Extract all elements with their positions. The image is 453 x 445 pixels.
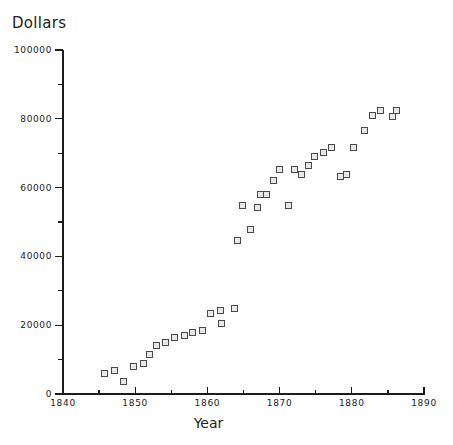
x-tick-label: 1870: [260, 398, 300, 408]
x-tick-label: 1880: [332, 398, 372, 408]
data-point: [254, 204, 261, 211]
data-point: [305, 162, 312, 169]
data-point: [291, 166, 298, 173]
data-point: [153, 342, 160, 349]
data-point: [247, 226, 254, 233]
x-axis-label: Year: [0, 415, 453, 431]
data-point: [320, 149, 327, 156]
data-point: [217, 307, 224, 314]
data-point: [361, 127, 368, 134]
data-point: [199, 327, 206, 334]
data-point: [140, 360, 147, 367]
data-point: [276, 166, 283, 173]
data-point: [162, 339, 169, 346]
y-tick-label: 100000: [0, 45, 52, 55]
y-tick-major: [55, 325, 63, 326]
y-tick-major: [55, 118, 63, 119]
data-point: [101, 370, 108, 377]
data-point: [234, 237, 241, 244]
data-point: [218, 320, 225, 327]
data-point: [231, 305, 238, 312]
data-point: [171, 334, 178, 341]
data-point: [146, 351, 153, 358]
y-tick-label: 60000: [0, 183, 52, 193]
scatter-chart: Dollars 020000400006000080000100000 1840…: [0, 0, 453, 445]
data-point: [343, 171, 350, 178]
x-axis-label-text: Year: [194, 415, 224, 431]
y-tick-label: 40000: [0, 251, 52, 261]
data-point: [369, 112, 376, 119]
data-point: [328, 144, 335, 151]
data-point: [393, 107, 400, 114]
data-point: [111, 367, 118, 374]
data-point: [181, 332, 188, 339]
data-point: [298, 171, 305, 178]
data-point: [311, 153, 318, 160]
chart-title: Dollars: [12, 14, 66, 32]
plot-area: [63, 50, 424, 394]
x-tick-label: 1840: [43, 398, 83, 408]
y-tick-label: 80000: [0, 114, 52, 124]
data-point: [350, 144, 357, 151]
data-point: [189, 329, 196, 336]
y-tick-major: [55, 256, 63, 257]
data-point: [377, 107, 384, 114]
y-tick-major: [55, 187, 63, 188]
data-point: [285, 202, 292, 209]
y-tick-major: [55, 49, 63, 50]
x-tick-label: 1850: [115, 398, 155, 408]
data-point: [270, 177, 277, 184]
data-point: [207, 310, 214, 317]
y-tick-label: 20000: [0, 320, 52, 330]
x-tick-label: 1860: [187, 398, 227, 408]
data-point: [120, 378, 127, 385]
data-point: [263, 191, 270, 198]
data-point: [130, 363, 137, 370]
x-tick-label: 1890: [404, 398, 444, 408]
data-point: [239, 202, 246, 209]
